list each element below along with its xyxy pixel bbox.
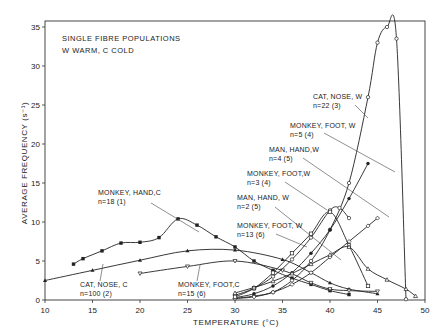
annotation-count: n=2 (5) [237,203,261,211]
y-tick-label: 20 [31,140,40,149]
leader-line [275,207,341,260]
annotation-count: n=3 (4) [247,179,271,187]
annotation-count: n=4 (5) [269,155,293,163]
leader-line [276,234,307,247]
annotation-count: n=13 (6) [237,231,265,239]
x-tick-label: 50 [421,306,430,315]
annotation-7: MAN, HAND, Wn=2 (5) [237,194,289,211]
series-8 [233,245,418,298]
chart: 101520253035404550 05101520253035 MONKEY… [0,0,443,335]
annotation-label: MONKEY, FOOT,W [247,170,311,177]
annotation-label: MAN, HAND, W [237,194,289,201]
annotation-label: MAN, HAND,W [269,146,319,153]
plot-border [45,21,425,300]
chart-title: SINGLE FIBRE POPULATIONS [62,34,181,43]
y-axis-ticks: 05101520253035 [31,23,45,305]
x-tick-label: 35 [278,306,287,315]
leader-line [197,265,200,281]
y-tick-label: 25 [31,101,40,110]
y-tick-label: 15 [31,179,40,188]
annotation-4: MONKEY, FOOT, Wn=5 (4) [290,122,356,139]
annotation-3: CAT, NOSE, Wn=22 (3) [313,93,363,110]
x-tick-label: 20 [136,306,145,315]
y-tick-label: 5 [36,257,41,266]
annotation-5: MAN, HAND,Wn=4 (5) [269,146,319,163]
series-3 [233,15,407,301]
annotation-6: MONKEY, FOOT,Wn=3 (4) [247,170,311,187]
x-tick-label: 30 [231,306,240,315]
x-tick-label: 45 [373,306,382,315]
annotation-label: MONKEY, HAND,C [98,189,161,196]
annotation-label: MONKEY, FOOT, W [290,122,356,129]
annotation-label: MONKEY, FOOT,C [178,281,240,288]
leader-line [285,182,327,210]
annotation-2: MONKEY, FOOT,Cn=15 (6) [178,281,240,298]
x-axis-title: TEMPERATURE (°C) [193,318,279,327]
y-tick-label: 0 [36,296,41,305]
x-tick-label: 40 [326,306,335,315]
x-tick-label: 25 [183,306,192,315]
x-tick-label: 10 [41,306,50,315]
annotation-count: n=5 (4) [290,131,314,139]
leader-line [303,158,389,217]
annotation-8: MONKEY, FOOT, Wn=13 (6) [237,222,303,239]
annotation-count: n=15 (6) [178,290,206,298]
leader-line [100,264,103,281]
y-axis-title: AVERAGE FREQUENCY (s⁻¹) [20,102,29,224]
leader-line [151,203,199,232]
annotation-count: n=100 (2) [80,290,112,298]
annotation-count: n=18 (1) [98,198,126,206]
annotation-label: MONKEY, FOOT, W [237,222,303,229]
x-axis-ticks: 101520253035404550 [41,300,430,315]
x-tick-label: 15 [88,306,97,315]
annotation-1: CAT, NOSE, Cn=100 (2) [80,281,128,298]
annotation-label: CAT, NOSE, C [80,281,128,288]
y-tick-label: 35 [31,23,40,32]
y-tick-label: 30 [31,62,40,71]
y-tick-label: 10 [31,218,40,227]
series-2 [138,260,380,294]
chart-subtitle: W WARM, C COLD [62,46,134,55]
annotation-label: CAT, NOSE, W [313,93,363,100]
plot-frame [45,21,425,300]
annotation-count: n=22 (3) [313,102,341,110]
series-annotations: MONKEY, HAND,Cn=18 (1)CAT, NOSE, Cn=100 … [80,93,363,298]
data-series [43,15,418,301]
